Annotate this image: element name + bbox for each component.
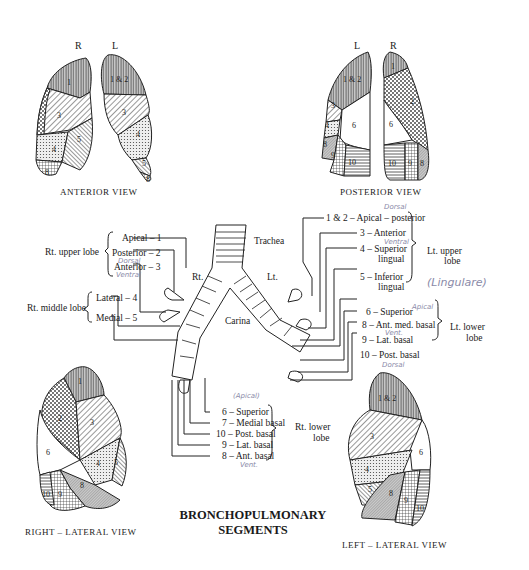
lt-superior-lingual-4: 4 – Superior — [360, 244, 407, 254]
svg-text:10: 10 — [348, 158, 356, 167]
posterior-right-side-label: R — [390, 40, 397, 51]
svg-text:3: 3 — [90, 418, 94, 427]
title-line-1: BRONCHOPULMONARY — [178, 508, 328, 523]
anterior-view-caption: ANTERIOR VIEW — [60, 187, 138, 197]
svg-text:9: 9 — [331, 151, 335, 160]
rt-lower-lobe-label-2: lobe — [313, 433, 329, 443]
anterior-right-lung — [36, 58, 93, 175]
svg-text:1 & 2: 1 & 2 — [343, 75, 361, 84]
svg-text:6: 6 — [389, 120, 393, 129]
svg-text:1: 1 — [78, 377, 82, 386]
svg-text:8: 8 — [80, 481, 84, 490]
posterior-view-caption: POSTERIOR VIEW — [340, 187, 422, 197]
svg-text:5: 5 — [368, 485, 372, 494]
svg-text:5: 5 — [114, 458, 118, 467]
lt-lat-basal-9: 9 – Lat. basal — [362, 335, 413, 345]
svg-text:9: 9 — [58, 490, 62, 499]
bronchial-tree — [160, 225, 311, 393]
svg-text:6: 6 — [46, 448, 50, 457]
lt-post-basal-10: 10 – Post. basal — [360, 350, 420, 360]
svg-text:8: 8 — [420, 159, 424, 168]
svg-text:4: 4 — [136, 130, 140, 139]
lt-inferior-lingual-5: 5 – Inferior — [360, 272, 403, 282]
svg-text:1 & 2: 1 & 2 — [378, 394, 396, 403]
svg-text:4: 4 — [325, 121, 329, 130]
svg-text:10: 10 — [416, 504, 424, 513]
lt-superior-6: 6 – Superior — [366, 307, 413, 317]
svg-text:1: 1 — [391, 62, 395, 71]
trachea-label: Trachea — [254, 236, 284, 246]
rt-middle-lobe-label: Rt. middle lobe — [27, 303, 86, 313]
rt-post-basal-10: 10 – Post. basal — [216, 429, 276, 439]
svg-text:4: 4 — [52, 145, 56, 154]
svg-text:3: 3 — [331, 101, 335, 110]
svg-text:10: 10 — [42, 490, 50, 499]
svg-text:8: 8 — [45, 168, 49, 177]
lt-apical-posterior-1-2: 1 & 2 – Apical – posterior — [326, 213, 425, 223]
svg-text:6: 6 — [419, 448, 423, 457]
rt-superior-6: 6 – Superior — [222, 407, 269, 417]
svg-text:8: 8 — [389, 489, 393, 498]
svg-text:5: 5 — [77, 135, 81, 144]
anterior-left-side-label: L — [112, 40, 118, 51]
title-line-2: SEGMENTS — [178, 523, 328, 538]
svg-text:8: 8 — [146, 175, 150, 184]
right-main-bronchus-label: Rt. — [192, 272, 203, 282]
rt-upper-lobe-label: Rt. upper lobe — [45, 247, 99, 257]
svg-text:9: 9 — [408, 159, 412, 168]
handwritten-dorsal-left-2: Dorsal — [382, 361, 404, 369]
lt-lower-lobe-label-1: Lt. lower — [450, 322, 485, 332]
rt-ant-basal-8: 8 – Ant. basal — [222, 451, 274, 461]
left-lateral-view-caption: LEFT – LATERAL VIEW — [342, 540, 447, 550]
svg-text:1 & 2: 1 & 2 — [110, 75, 128, 84]
handwritten-apical: (Apical) — [233, 392, 260, 400]
svg-text:10: 10 — [388, 159, 396, 168]
svg-text:8: 8 — [323, 140, 327, 149]
lt-anterior-3: 3 – Anterior — [360, 228, 406, 238]
svg-text:2: 2 — [410, 97, 414, 106]
handwritten-dorsal: Dorsal — [118, 257, 140, 265]
svg-text:3: 3 — [122, 108, 126, 117]
posterior-left-lung — [322, 52, 371, 176]
diagram-title: BRONCHOPULMONARY SEGMENTS — [178, 508, 328, 538]
svg-text:2: 2 — [58, 414, 62, 423]
rt-medial-5: Medial – 5 — [96, 313, 137, 323]
rt-medial-basal-7: 7 – Medial basal — [222, 418, 285, 428]
rt-lat-basal-9: 9 – Lat. basal — [222, 440, 273, 450]
handwritten-apical-left: Apical — [412, 303, 433, 311]
left-main-bronchus-label: Lt. — [267, 272, 278, 282]
rt-apical-1: Apical – 1 — [122, 233, 162, 243]
rt-lateral-4: Lateral – 4 — [96, 293, 137, 303]
svg-text:4: 4 — [96, 459, 100, 468]
lt-upper-lobe-label-1: Lt. upper — [427, 246, 462, 256]
lt-inferior-lingual-5-line2: lingual — [378, 282, 404, 292]
handwritten-dorsal-left: Dorsal — [384, 203, 406, 211]
svg-text:3: 3 — [370, 432, 374, 441]
posterior-left-side-label: L — [354, 40, 360, 51]
svg-text:1: 1 — [67, 78, 71, 87]
handwritten-lingulare: (Lingulare) — [427, 276, 487, 289]
svg-text:5: 5 — [142, 159, 146, 168]
svg-text:3: 3 — [57, 111, 61, 120]
anterior-right-side-label: R — [75, 40, 82, 51]
lt-upper-lobe-label-2: lobe — [444, 256, 460, 266]
carina-label: Carina — [225, 316, 250, 326]
rt-lower-lobe-label-1: Rt. lower — [295, 422, 330, 432]
svg-text:9: 9 — [404, 496, 408, 505]
lt-lower-lobe-label-2: lobe — [466, 333, 482, 343]
svg-text:6: 6 — [352, 121, 356, 130]
handwritten-ventral: Ventral — [116, 271, 141, 279]
right-lateral-view-caption: RIGHT – LATERAL VIEW — [25, 527, 137, 537]
svg-text:4: 4 — [365, 465, 369, 474]
lt-superior-lingual-4-line2: lingual — [378, 254, 404, 264]
handwritten-vent: Vent. — [240, 461, 258, 469]
